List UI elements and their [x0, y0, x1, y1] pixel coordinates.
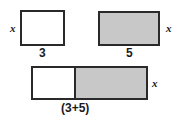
area-model-figure: x 3 x 5 x (3+5)	[0, 0, 179, 123]
height-label-x-left: x	[10, 23, 16, 34]
rectangle-combined-shaded-part	[74, 66, 148, 100]
width-label-three: 3	[39, 47, 46, 59]
height-label-x-right: x	[166, 23, 172, 34]
height-label-x-combined: x	[152, 78, 158, 89]
rectangle-width-five	[98, 11, 160, 46]
width-label-sum: (3+5)	[61, 102, 89, 114]
rectangle-width-three	[20, 10, 65, 46]
width-label-five: 5	[126, 47, 133, 59]
